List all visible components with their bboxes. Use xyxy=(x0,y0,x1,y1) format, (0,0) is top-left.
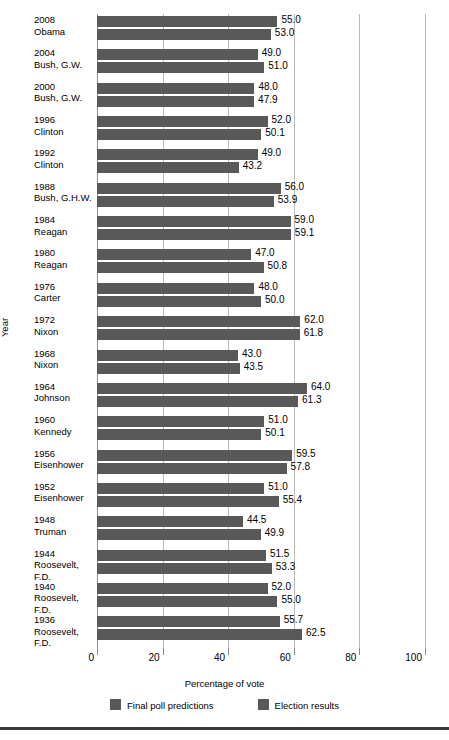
bar-value-label: 47.9 xyxy=(258,94,277,105)
bar-value-label: 62.5 xyxy=(306,627,325,638)
category-year: 1944 xyxy=(34,548,94,560)
category-year: 1988 xyxy=(34,181,94,193)
bar xyxy=(97,629,302,640)
bar-value-label: 50.1 xyxy=(265,127,284,138)
bar xyxy=(97,116,268,127)
bar xyxy=(97,483,264,494)
x-tick-label: 20 xyxy=(120,652,160,663)
bar-value-label: 51.5 xyxy=(270,548,289,559)
bar-value-label: 55.0 xyxy=(281,14,300,25)
bar xyxy=(97,283,254,294)
bar xyxy=(97,563,272,574)
bar-value-label: 49.0 xyxy=(262,147,281,158)
bar-value-label: 55.7 xyxy=(284,614,303,625)
category-year: 2008 xyxy=(34,14,94,26)
x-axis: 020406080100 xyxy=(97,648,425,670)
category-year: 1980 xyxy=(34,247,94,259)
x-tick-40 xyxy=(228,648,229,655)
bar xyxy=(97,350,238,361)
bar-value-label: 51.0 xyxy=(268,60,287,71)
x-tick-label: 40 xyxy=(185,652,225,663)
bar-value-label: 59.0 xyxy=(295,214,314,225)
category-president: Johnson xyxy=(34,392,94,404)
bar xyxy=(97,83,254,94)
category-label: 1944Roosevelt, F.D. xyxy=(34,548,94,583)
bar xyxy=(97,229,291,240)
x-tick-100 xyxy=(425,648,426,655)
category-president: Nixon xyxy=(34,326,94,338)
x-tick-label: 80 xyxy=(316,652,356,663)
category-president: Roosevelt, F.D. xyxy=(34,559,94,582)
category-president: Reagan xyxy=(34,226,94,238)
legend-label: Final poll predictions xyxy=(127,700,214,711)
category-year: 1996 xyxy=(34,114,94,126)
bar-value-label: 55.4 xyxy=(283,494,302,505)
bar xyxy=(97,496,279,507)
x-tick-80 xyxy=(359,648,360,655)
y-axis-title: Year xyxy=(0,308,10,348)
category-president: Clinton xyxy=(34,159,94,171)
bar-value-label: 61.3 xyxy=(302,394,321,405)
category-president: Bush, G.H.W. xyxy=(34,192,94,204)
bar xyxy=(97,49,258,60)
gridline-100 xyxy=(425,14,426,648)
legend-item: Election results xyxy=(258,699,339,711)
category-president: Nixon xyxy=(34,359,94,371)
bar xyxy=(97,516,243,527)
category-year: 2000 xyxy=(34,81,94,93)
bar xyxy=(97,383,307,394)
bar xyxy=(97,183,281,194)
bar-value-label: 51.0 xyxy=(268,414,287,425)
x-tick-20 xyxy=(163,648,164,655)
bar-value-label: 55.0 xyxy=(281,594,300,605)
category-label: 1980Reagan xyxy=(34,247,94,270)
bar-value-label: 53.0 xyxy=(275,27,294,38)
bar xyxy=(97,62,264,73)
bar xyxy=(97,249,251,260)
bar xyxy=(97,29,271,40)
bar-value-label: 52.0 xyxy=(272,581,291,592)
category-president: Truman xyxy=(34,526,94,538)
bar-value-label: 44.5 xyxy=(247,514,266,525)
category-label: 1964Johnson xyxy=(34,381,94,404)
bar xyxy=(97,616,280,627)
category-label: 1972Nixon xyxy=(34,314,94,337)
category-label: 1952Eisenhower xyxy=(34,481,94,504)
bar-value-label: 43.2 xyxy=(243,160,262,171)
chart-legend: Final poll predictionsElection results xyxy=(0,699,449,711)
category-label: 1992Clinton xyxy=(34,147,94,170)
bar-value-label: 47.0 xyxy=(255,247,274,258)
bar xyxy=(97,596,277,607)
category-label: 1968Nixon xyxy=(34,348,94,371)
bar-value-label: 53.9 xyxy=(278,194,297,205)
plot-area: 55.053.049.051.048.047.952.050.149.043.2… xyxy=(97,14,425,648)
category-label: 1996Clinton xyxy=(34,114,94,137)
bar xyxy=(97,96,254,107)
bar xyxy=(97,296,261,307)
category-year: 2004 xyxy=(34,47,94,59)
category-president: Reagan xyxy=(34,259,94,271)
category-president: Kennedy xyxy=(34,426,94,438)
bar-value-label: 50.0 xyxy=(265,294,284,305)
bar-value-label: 59.1 xyxy=(295,227,314,238)
category-label: 1936Roosevelt, F.D. xyxy=(34,614,94,649)
bar xyxy=(97,316,300,327)
bar xyxy=(97,416,264,427)
bar-value-label: 64.0 xyxy=(311,381,330,392)
category-year: 1964 xyxy=(34,381,94,393)
category-president: Eisenhower xyxy=(34,459,94,471)
bar-value-label: 59.5 xyxy=(296,448,315,459)
bar xyxy=(97,129,261,140)
bar-value-label: 48.0 xyxy=(258,281,277,292)
category-label: 1988Bush, G.H.W. xyxy=(34,181,94,204)
category-label: 1940Roosevelt, F.D. xyxy=(34,581,94,616)
category-year: 1952 xyxy=(34,481,94,493)
bar xyxy=(97,529,261,540)
gridline-80 xyxy=(359,14,360,648)
category-president: Bush, G.W. xyxy=(34,92,94,104)
category-year: 1992 xyxy=(34,147,94,159)
category-year: 1948 xyxy=(34,514,94,526)
category-label: 1948Truman xyxy=(34,514,94,537)
category-year: 1968 xyxy=(34,348,94,360)
bar xyxy=(97,429,261,440)
